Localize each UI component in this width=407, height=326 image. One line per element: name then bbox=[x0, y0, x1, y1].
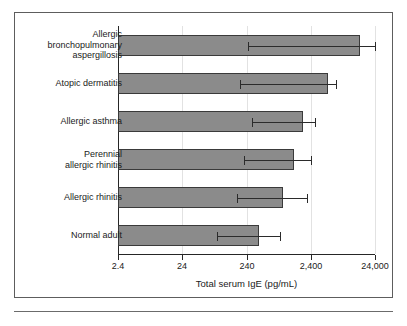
category-label-line: Allergic bbox=[10, 29, 122, 40]
category-label: Atopic dermatitis bbox=[10, 78, 122, 89]
x-gridline bbox=[182, 26, 183, 254]
error-bar-cap-high bbox=[280, 232, 281, 241]
category-label-line: allergic rhinitis bbox=[10, 159, 122, 170]
x-axis-tick bbox=[375, 255, 376, 260]
category-label-line: Allergic asthma bbox=[10, 116, 122, 127]
error-bar-line bbox=[248, 46, 375, 47]
x-axis-tick bbox=[311, 255, 312, 260]
x-axis-tick bbox=[247, 255, 248, 260]
x-gridline bbox=[375, 26, 376, 254]
error-bar-cap-low bbox=[217, 232, 218, 241]
x-axis-tick-label: 2.4 bbox=[112, 261, 125, 272]
error-bar-cap-low bbox=[237, 194, 238, 203]
x-axis-tick-label: 2,400 bbox=[300, 261, 323, 272]
error-bar-cap-low bbox=[252, 118, 253, 127]
category-label-line: aspergillosis bbox=[10, 50, 122, 61]
x-gridline bbox=[311, 26, 312, 254]
error-bar-cap-high bbox=[315, 118, 316, 127]
category-label-line: Allergic rhinitis bbox=[10, 192, 122, 203]
x-axis-title: Total serum IgE (pg/mL) bbox=[118, 278, 375, 289]
category-label-line: Atopic dermatitis bbox=[10, 78, 122, 89]
x-axis-tick-label: 24 bbox=[177, 261, 187, 272]
category-label-line: Perennial bbox=[10, 149, 122, 160]
error-bar-line bbox=[240, 84, 336, 85]
error-bar-line bbox=[217, 236, 280, 237]
category-label: Allergicbronchopulmonaryaspergillosis bbox=[10, 29, 122, 61]
category-label: Perennialallergic rhinitis bbox=[10, 149, 122, 170]
error-bar-cap-high bbox=[336, 80, 337, 89]
x-gridline bbox=[247, 26, 248, 254]
error-bar-cap-high bbox=[311, 156, 312, 165]
error-bar-cap-high bbox=[307, 194, 308, 203]
x-axis-tick-label: 24,000 bbox=[361, 261, 389, 272]
x-axis-tick bbox=[118, 255, 119, 260]
error-bar-line bbox=[252, 122, 315, 123]
category-label: Allergic rhinitis bbox=[10, 192, 122, 203]
x-axis-tick-label: 240 bbox=[239, 261, 254, 272]
error-bar-line bbox=[244, 160, 311, 161]
error-bar-cap-high bbox=[375, 42, 376, 51]
category-label-line: bronchopulmonary bbox=[10, 40, 122, 51]
figure-page: 2.4242402,40024,000Allergicbronchopulmon… bbox=[0, 0, 407, 326]
error-bar-cap-low bbox=[240, 80, 241, 89]
error-bar-cap-low bbox=[244, 156, 245, 165]
error-bar-line bbox=[237, 198, 307, 199]
category-label: Allergic asthma bbox=[10, 116, 122, 127]
error-bar-cap-low bbox=[248, 42, 249, 51]
category-label-line: Normal adult bbox=[10, 230, 122, 241]
category-label: Normal adult bbox=[10, 230, 122, 241]
x-axis-tick bbox=[182, 255, 183, 260]
